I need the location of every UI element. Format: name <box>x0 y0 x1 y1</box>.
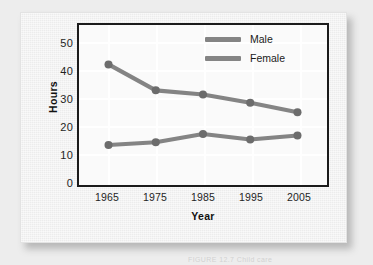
y-tick-50: 50 <box>39 37 73 49</box>
legend-label-female: Female <box>250 52 285 64</box>
data-point-male-1995 <box>246 99 254 107</box>
data-point-female-1965 <box>104 141 112 149</box>
legend-swatch-female <box>205 56 241 61</box>
data-point-female-2005 <box>293 131 301 139</box>
figure-caption: FIGURE 12.7 Child care <box>188 256 373 263</box>
x-axis-tick-labels: 19651975198519952005 <box>77 191 329 207</box>
plot-svg <box>79 25 327 185</box>
plot-area: Male Female <box>77 23 329 187</box>
data-point-male-1985 <box>199 90 207 98</box>
data-point-male-1965 <box>104 60 112 68</box>
data-point-male-1975 <box>152 86 160 94</box>
x-tick-1985: 1985 <box>191 191 215 203</box>
legend-item-male: Male <box>205 33 285 45</box>
data-point-female-1975 <box>152 138 160 146</box>
data-point-female-1985 <box>199 130 207 138</box>
legend-item-female: Female <box>205 52 285 64</box>
data-point-female-1995 <box>246 136 254 144</box>
x-tick-1995: 1995 <box>239 191 263 203</box>
x-tick-2005: 2005 <box>287 191 311 203</box>
y-tick-10: 10 <box>39 149 73 161</box>
x-tick-1965: 1965 <box>95 191 119 203</box>
y-axis-label: Hours <box>47 62 59 132</box>
data-point-male-2005 <box>293 108 301 116</box>
legend-swatch-male <box>205 37 241 42</box>
series-line-male <box>109 64 298 112</box>
x-axis-label: Year <box>77 210 329 222</box>
chart-legend: Male Female <box>205 33 285 71</box>
y-tick-0: 0 <box>39 177 73 189</box>
x-tick-1975: 1975 <box>143 191 167 203</box>
figure-card: 01020304050 Hours Male Female 1965197519… <box>20 12 347 243</box>
legend-label-male: Male <box>250 33 273 45</box>
